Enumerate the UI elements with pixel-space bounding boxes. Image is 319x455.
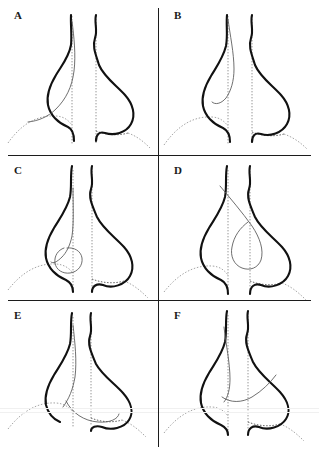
baseline-arch-left [8, 264, 73, 290]
panel-c-plot [0, 158, 159, 310]
divider-horizontal-top [8, 155, 311, 156]
panel-b-plot [160, 3, 319, 155]
baseline-arch-mid [92, 279, 124, 283]
panel-c-thin-curve [55, 248, 82, 273]
panel-label-b: B [174, 10, 182, 21]
scan-artifact-line [0, 412, 319, 413]
panel-b-thin-curve [212, 19, 234, 104]
right-lobe-curve [94, 15, 134, 141]
panel-f-plot [160, 303, 319, 455]
panel-b: B [160, 3, 319, 155]
left-lobe-curve [45, 313, 72, 422]
baseline-arch-right [128, 133, 150, 148]
baseline-arch-right [282, 283, 306, 300]
baseline-arch-right [284, 134, 307, 149]
panel-e: E [0, 303, 159, 455]
right-lobe-curve [89, 313, 131, 431]
right-lobe-curve [250, 15, 290, 142]
panel-a-plot [0, 3, 159, 155]
left-lobe-curve [47, 15, 74, 141]
panel-e-plot [0, 303, 159, 455]
panel-label-c: C [14, 165, 22, 176]
figure-panel-grid: A B C [0, 0, 319, 455]
panel-label-a: A [14, 10, 22, 21]
panel-f: F [160, 303, 319, 455]
baseline-arch-right [124, 281, 148, 298]
baseline-arch-left [164, 407, 228, 433]
baseline-arch-right [280, 424, 304, 441]
right-lobe-curve [90, 166, 132, 292]
panel-label-f: F [174, 310, 181, 321]
left-lobe-curve [200, 166, 228, 294]
panel-c: C [0, 158, 159, 310]
baseline-arch-left [8, 116, 72, 143]
panel-d: D [160, 158, 319, 310]
left-lobe-curve [200, 311, 228, 435]
panel-d-thin-curve [220, 186, 262, 269]
panel-a-thin-curve [28, 21, 75, 122]
baseline-arch-mid [248, 422, 280, 426]
baseline-arch-mid [91, 418, 122, 422]
scan-artifact-line [0, 408, 319, 409]
right-lobe-curve [246, 311, 288, 435]
panel-label-d: D [174, 165, 182, 176]
panel-d-plot [160, 158, 319, 310]
baseline-arch-left [164, 117, 228, 145]
panel-label-e: E [14, 310, 22, 321]
divider-horizontal-bottom [8, 300, 311, 301]
divider-vertical [158, 8, 159, 447]
panel-a: A [0, 3, 159, 155]
panel-e-thin-stem [63, 325, 76, 407]
